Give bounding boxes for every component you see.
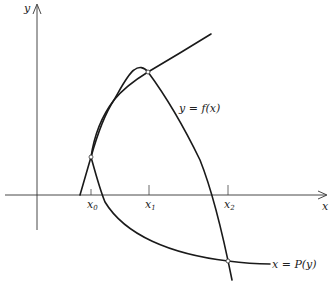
tick-label-x0: x0: [87, 198, 98, 212]
intersection-point-x1: [146, 70, 150, 74]
y-axis-label: y: [23, 2, 31, 15]
diagram-canvas: y x x0 x1 x2 y = f(x) x = P(y): [0, 0, 331, 285]
x-ticks: [91, 185, 228, 195]
x-axis-label: x: [322, 200, 329, 213]
curve-f-label: y = f(x): [178, 102, 220, 115]
tick-label-x1: x1: [145, 198, 156, 212]
curve-f: [80, 68, 232, 280]
tick-label-x2: x2: [224, 198, 235, 212]
axes: [5, 4, 327, 230]
curve-P-label: x = P(y): [272, 258, 317, 271]
intersection-point-x0: [89, 155, 93, 159]
curve-P: [91, 34, 270, 264]
intersection-point-x2: [226, 259, 230, 263]
